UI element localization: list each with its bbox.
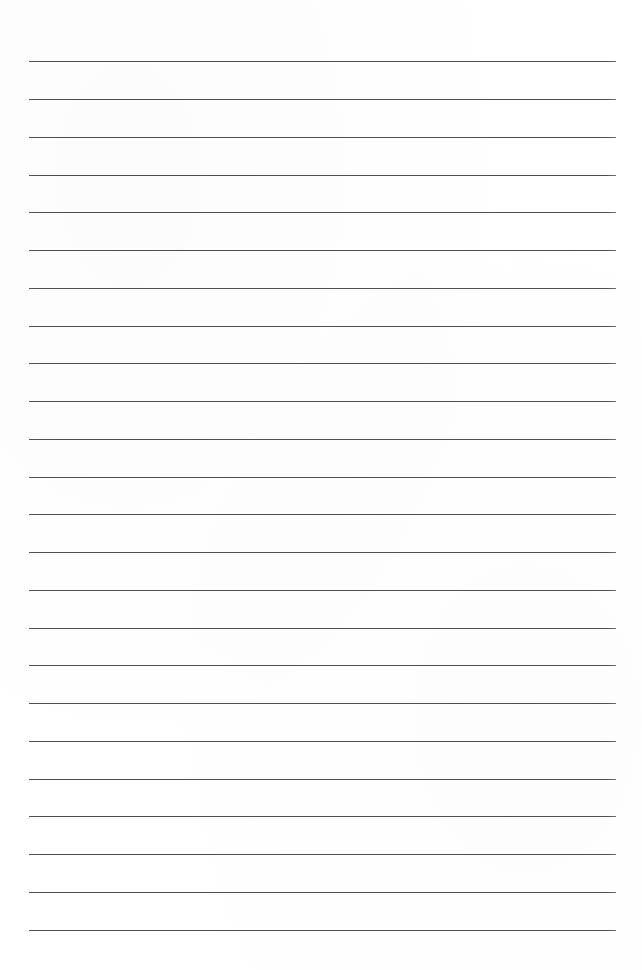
rule-stroke [29, 741, 616, 742]
rule-stroke [29, 99, 616, 100]
rule-stroke [29, 854, 616, 855]
rule-stroke [29, 779, 616, 780]
rule-stroke [29, 892, 616, 893]
rule-stroke [29, 175, 616, 176]
rule-stroke [29, 816, 616, 817]
rule-stroke [29, 930, 616, 931]
rule-stroke [29, 552, 616, 553]
rule-stroke [29, 665, 616, 666]
rule-stroke [29, 212, 616, 213]
rule-stroke [29, 439, 616, 440]
rule-stroke [29, 628, 616, 629]
ruled-writing-area[interactable] [0, 0, 642, 970]
rule-stroke [29, 137, 616, 138]
rule-stroke [29, 61, 616, 62]
rule-stroke [29, 250, 616, 251]
rule-stroke [29, 514, 616, 515]
rule-stroke [29, 363, 616, 364]
rule-stroke [29, 477, 616, 478]
rule-stroke [29, 401, 616, 402]
rule-stroke [29, 326, 616, 327]
rule-stroke [29, 590, 616, 591]
lined-paper-page [0, 0, 642, 970]
rule-stroke [29, 288, 616, 289]
rule-stroke [29, 703, 616, 704]
